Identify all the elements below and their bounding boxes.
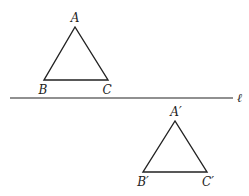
reflection-diagram: ℓ A B C A′ B′ C′ <box>0 0 249 196</box>
vertex-b-label: B <box>38 83 48 97</box>
vertex-b-prime-label: B′ <box>136 175 149 189</box>
vertex-c-label: C <box>102 83 111 97</box>
line-l-label: ℓ <box>237 91 242 105</box>
vertex-a-label: A <box>70 11 80 25</box>
triangle-abc <box>44 27 108 80</box>
triangle-a-prime-b-prime-c-prime <box>143 121 207 172</box>
vertex-c-prime-label: C′ <box>202 175 214 189</box>
vertex-a-prime-label: A′ <box>169 105 182 119</box>
diagram-svg: ℓ A B C A′ B′ C′ <box>0 0 249 196</box>
